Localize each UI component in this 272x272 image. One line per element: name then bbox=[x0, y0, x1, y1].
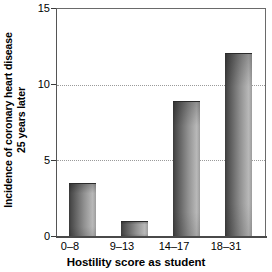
y-axis-tick-labels: 15 10 5 0 bbox=[28, 0, 50, 245]
y-tick-label-5: 5 bbox=[28, 155, 50, 166]
bar-18-31 bbox=[225, 53, 252, 236]
y-tick-label-10: 10 bbox=[28, 79, 50, 90]
plot-area bbox=[56, 8, 266, 237]
x-tick-label-14-17: 14–17 bbox=[148, 240, 200, 253]
y-axis-title-line2: 25 years later bbox=[15, 32, 28, 208]
bar-14-17 bbox=[173, 101, 200, 236]
bar-0-8 bbox=[69, 183, 96, 236]
x-tick-label-18-31: 18–31 bbox=[200, 240, 252, 253]
x-axis-baseline bbox=[56, 236, 267, 238]
bar-9-13 bbox=[121, 221, 148, 236]
y-axis-title: Incidence of coronary heart disease 25 y… bbox=[0, 0, 30, 240]
y-axis-title-line1: Incidence of coronary heart disease bbox=[2, 32, 15, 208]
x-tick-label-9-13: 9–13 bbox=[96, 240, 148, 253]
x-axis-title: Hostility score as student bbox=[0, 256, 272, 268]
chart-figure: Incidence of coronary heart disease 25 y… bbox=[0, 0, 272, 272]
y-tick-label-15: 15 bbox=[28, 3, 50, 14]
x-tick-label-0-8: 0–8 bbox=[44, 240, 96, 253]
